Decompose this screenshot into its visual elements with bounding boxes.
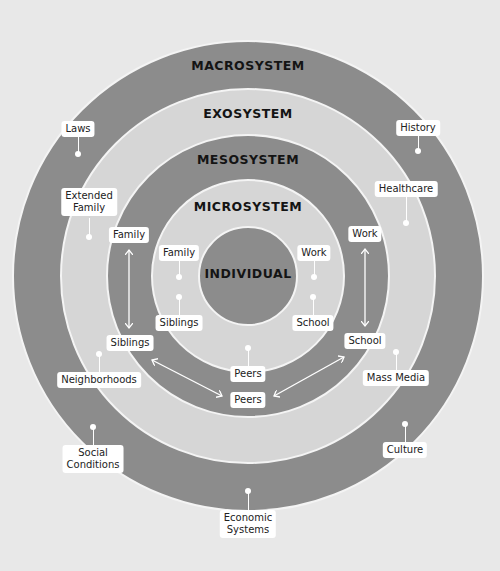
dot-history <box>415 148 421 154</box>
label-extended-family: Extended Family <box>61 188 117 216</box>
label-meso-school: School <box>344 333 385 349</box>
dot-laws <box>75 151 81 157</box>
siblings-peers-arrow <box>152 360 222 396</box>
relationship-arrows <box>0 0 500 571</box>
dot-mass-media <box>393 349 399 355</box>
pin-culture <box>405 425 407 442</box>
label-neighborhoods: Neighborhoods <box>57 372 141 388</box>
dot-culture <box>402 421 408 427</box>
label-micro-siblings: Siblings <box>156 315 203 331</box>
label-micro-school: School <box>292 315 333 331</box>
economic-systems-line1: Economic <box>224 512 272 524</box>
dot-extended-family <box>86 234 92 240</box>
dot-micro-work <box>311 274 317 280</box>
economic-systems-line2: Systems <box>224 524 272 536</box>
label-meso-peers: Peers <box>230 392 265 408</box>
pin-neighborhoods <box>99 355 101 372</box>
dot-economic-systems <box>245 488 251 494</box>
school-peers-arrow <box>274 357 344 396</box>
label-meso-siblings: Siblings <box>107 335 154 351</box>
label-mass-media: Mass Media <box>363 370 429 386</box>
extended-family-line2: Family <box>65 202 113 214</box>
label-meso-family: Family <box>109 227 149 243</box>
dot-social-conditions <box>90 424 96 430</box>
label-micro-family: Family <box>159 245 199 261</box>
social-conditions-line1: Social <box>67 447 120 459</box>
dot-neighborhoods <box>96 351 102 357</box>
pin-economic-systems <box>248 492 250 510</box>
label-social-conditions: Social Conditions <box>63 445 124 473</box>
label-healthcare: Healthcare <box>375 181 438 197</box>
dot-healthcare <box>403 220 409 226</box>
pin-mass-media <box>396 353 398 370</box>
label-micro-work: Work <box>297 245 330 261</box>
pin-micro-peers <box>248 349 250 366</box>
pin-micro-siblings <box>179 298 181 315</box>
pin-micro-school <box>313 298 315 315</box>
extended-family-line1: Extended <box>65 190 113 202</box>
label-history: History <box>396 120 440 136</box>
label-micro-peers: Peers <box>230 366 265 382</box>
label-meso-work: Work <box>348 226 381 242</box>
dot-micro-family <box>176 274 182 280</box>
social-conditions-line2: Conditions <box>67 459 120 471</box>
label-economic-systems: Economic Systems <box>220 510 276 538</box>
label-laws: Laws <box>61 121 94 137</box>
label-culture: Culture <box>383 442 427 458</box>
pin-social-conditions <box>93 428 95 445</box>
